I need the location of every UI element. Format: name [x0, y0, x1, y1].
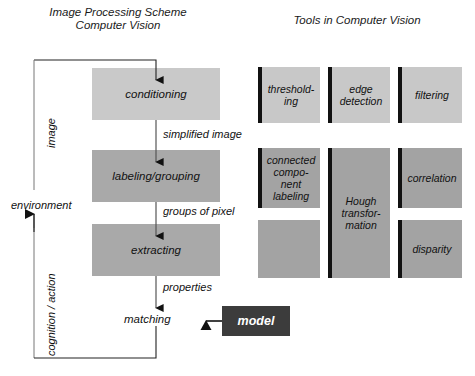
process-box-label: labeling/grouping — [112, 170, 200, 182]
tool-cell-label: correlation — [402, 148, 462, 208]
tool-cell-label: threshold- ing — [262, 67, 320, 123]
tool-cell-filtering[interactable]: filtering — [398, 67, 462, 123]
tool-cell-label: disparity — [402, 220, 462, 278]
tool-cell-label — [258, 220, 320, 278]
tool-cell-correlation[interactable]: correlation — [398, 148, 462, 208]
tool-cell-hough-transformation[interactable]: Hough transfor- mation — [328, 148, 390, 278]
tool-cell-label: Hough transfor- mation — [332, 148, 390, 278]
process-box-label: extracting — [131, 244, 181, 256]
tool-cell-edge-detection[interactable]: edge detection — [328, 67, 390, 123]
process-box-extracting[interactable]: extracting — [92, 224, 220, 276]
edge-label-properties: properties — [163, 281, 212, 293]
model-box-label: model — [238, 314, 275, 328]
tool-cell-disparity[interactable]: disparity — [398, 220, 462, 278]
tool-cell-empty[interactable] — [258, 220, 320, 278]
edge-label-groups-of-pixel: groups of pixel — [163, 205, 235, 217]
feedback-label-environment: environment — [11, 199, 72, 211]
right-diagram-title: Tools in Computer Vision — [272, 14, 442, 27]
feedback-label-cognition-action: cognition / action — [45, 273, 57, 356]
process-box-label: conditioning — [125, 88, 186, 100]
tool-cell-label: connected compo- nent labeling — [262, 148, 320, 208]
tool-cell-label: edge detection — [332, 67, 390, 123]
edge-label-simplified-image: simplified image — [163, 128, 242, 140]
feedback-label-image: image — [45, 118, 57, 148]
process-box-labeling-grouping[interactable]: labeling/grouping — [92, 150, 220, 202]
process-node-matching[interactable]: matching — [124, 313, 171, 325]
process-box-conditioning[interactable]: conditioning — [92, 68, 220, 120]
tool-cell-label: filtering — [402, 67, 462, 123]
tool-cell-connected-component-labeling[interactable]: connected compo- nent labeling — [258, 148, 320, 208]
left-diagram-title: Image Processing Scheme Computer Vision — [18, 6, 218, 32]
tool-cell-thresholding[interactable]: threshold- ing — [258, 67, 320, 123]
model-box[interactable]: model — [222, 306, 290, 336]
diagram-canvas: Image Processing Scheme Computer Vision … — [0, 0, 475, 376]
